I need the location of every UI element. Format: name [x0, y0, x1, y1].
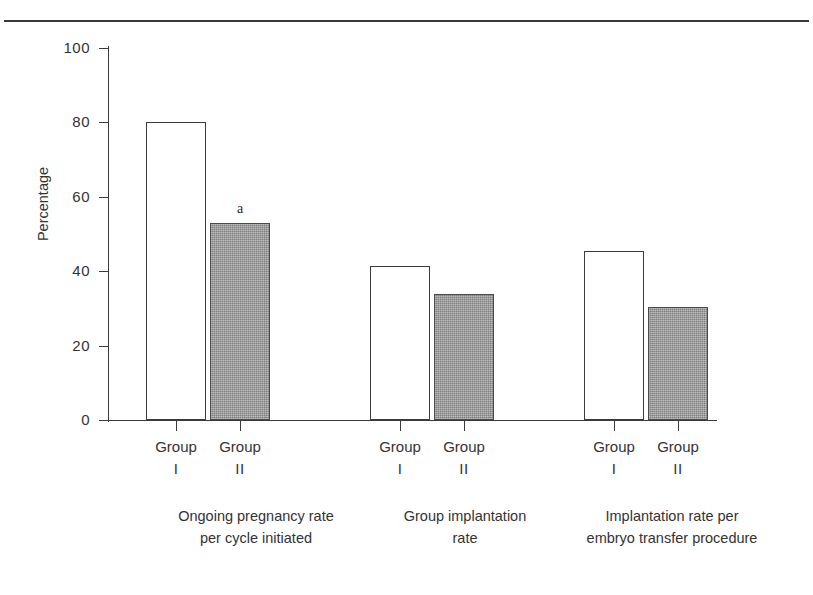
bar-group-ii: [648, 307, 708, 420]
group-label-word: Group: [219, 438, 261, 455]
bar-group-i: [370, 266, 430, 420]
figure-container: Percentage 100806040200 a GroupIGroupIIG…: [0, 0, 813, 595]
group-label-word: Group: [155, 438, 197, 455]
bar-group-i: [584, 251, 644, 420]
bar-note-marker: a: [220, 201, 260, 217]
y-axis-tick-mark: [99, 420, 108, 421]
y-axis-tick-label: 40: [44, 263, 90, 278]
x-axis-tick-mark: [176, 421, 177, 431]
group-label-word: Group: [443, 438, 485, 455]
bar-group-ii: [434, 294, 494, 420]
bar-group-i: [146, 122, 206, 420]
x-axis-group-label: GroupII: [192, 436, 288, 480]
y-axis-tick-mark: [99, 346, 108, 347]
y-axis-tick-mark: [99, 197, 108, 198]
group-label-numeral: II: [630, 458, 726, 480]
y-axis-tick-mark: [99, 48, 108, 49]
y-axis-line: [108, 46, 109, 422]
x-axis-line: [107, 420, 717, 421]
group-label-word: Group: [657, 438, 699, 455]
top-divider-rule: [4, 20, 809, 22]
x-axis-tick-mark: [678, 421, 679, 431]
group-label-numeral: II: [192, 458, 288, 480]
x-axis-group-label: GroupII: [416, 436, 512, 480]
x-axis-tick-mark: [240, 421, 241, 431]
x-axis-tick-mark: [464, 421, 465, 431]
y-axis-tick-label: 0: [44, 412, 90, 427]
y-axis-tick-label: 80: [44, 114, 90, 129]
y-axis-tick-mark: [99, 122, 108, 123]
y-axis-tick-label: 20: [44, 338, 90, 353]
y-axis-tick-mark: [99, 271, 108, 272]
x-axis-tick-mark: [614, 421, 615, 431]
y-axis-tick-label: 60: [44, 189, 90, 204]
y-axis-title: Percentage: [35, 144, 51, 264]
group-label-word: Group: [379, 438, 421, 455]
x-axis-group-label: GroupII: [630, 436, 726, 480]
group-label-numeral: II: [416, 458, 512, 480]
series-caption-line-1: Implantation rate per: [532, 505, 812, 527]
series-caption-line-2: embryo transfer procedure: [532, 527, 812, 549]
series-caption: Implantation rate perembryo transfer pro…: [532, 505, 812, 550]
x-axis-tick-mark: [400, 421, 401, 431]
group-label-word: Group: [593, 438, 635, 455]
y-axis-tick-label: 100: [44, 40, 90, 55]
bar-group-ii: [210, 223, 270, 420]
